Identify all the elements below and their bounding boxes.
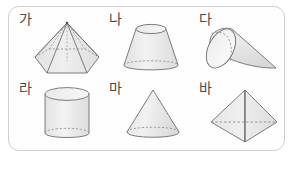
shape-cell-ba[interactable]: 바 <box>195 80 287 150</box>
hexagonal-pyramid-icon <box>15 11 107 81</box>
shape-cell-ra[interactable]: 라 <box>15 80 107 150</box>
shapes-panel: 가 <box>8 6 285 151</box>
page-bottom-margin <box>0 152 293 171</box>
cone-icon <box>105 80 197 150</box>
shape-cell-na[interactable]: 나 <box>105 11 197 81</box>
cone-on-side-icon <box>195 11 287 81</box>
worksheet-page: 가 <box>0 0 293 171</box>
shape-cell-da[interactable]: 다 <box>195 11 287 81</box>
truncated-cone-icon <box>105 11 197 81</box>
shape-cell-ga[interactable]: 가 <box>15 11 107 81</box>
cylinder-icon <box>15 80 107 150</box>
shape-cell-ma[interactable]: 마 <box>105 80 197 150</box>
triangular-pyramid-icon <box>195 80 287 150</box>
